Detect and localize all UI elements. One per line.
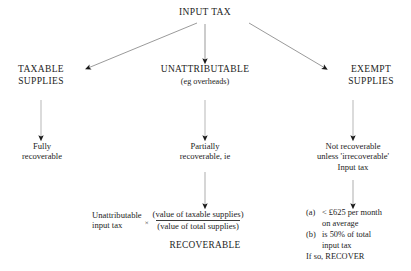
node-unattributable-sublabel: (eg overheads) <box>181 77 229 86</box>
condition-conclusion: If so, RECOVER <box>306 252 410 263</box>
node-unattributable: UNATTRIBUTABLE(eg overheads) <box>140 64 270 87</box>
edge-root-to-taxable <box>88 23 197 68</box>
node-taxable-supplies: TAXABLE SUPPLIES <box>2 64 80 87</box>
node-partially-recoverable: Partially recoverable, ie <box>143 141 267 162</box>
condition-item: (a) < £625 per month on average <box>306 208 410 230</box>
node-exempt-supplies: EXEMPT SUPPLIES <box>332 64 410 87</box>
formula-multiply-operator: × <box>145 213 149 227</box>
node-apportionment-formula: Unattributable input tax × (value of tax… <box>92 209 277 232</box>
formula-numerator: (value of taxable supplies) <box>152 209 245 220</box>
formula-left-term: Unattributable input tax <box>92 210 142 231</box>
condition-text: is 50% of total input tax <box>322 230 410 252</box>
formula-fraction: (value of taxable supplies) (value of to… <box>152 209 245 232</box>
condition-marker: (a) <box>306 208 319 230</box>
node-de-minimis-conditions: (a) < £625 per month on average (b) is 5… <box>306 208 410 263</box>
formula-denominator: (value of total supplies) <box>156 220 239 232</box>
input-tax-flowchart: · · · · · · · · · · INPUT TAX TAXABLE SU… <box>0 0 411 271</box>
edge-root-to-exempt <box>249 23 325 68</box>
clipped-top-text: · · · · · · · · · · <box>146 0 276 3</box>
node-not-recoverable: Not recoverable unless 'irrecoverable' I… <box>296 141 410 172</box>
condition-marker: (b) <box>306 230 319 252</box>
node-unattributable-label: UNATTRIBUTABLE <box>161 64 250 74</box>
node-input-tax: INPUT TAX <box>155 7 255 19</box>
condition-item: (b) is 50% of total input tax <box>306 230 410 252</box>
node-fully-recoverable: Fully recoverable <box>0 141 84 162</box>
node-recoverable: RECOVERABLE <box>150 240 260 251</box>
condition-text: < £625 per month on average <box>322 208 410 230</box>
